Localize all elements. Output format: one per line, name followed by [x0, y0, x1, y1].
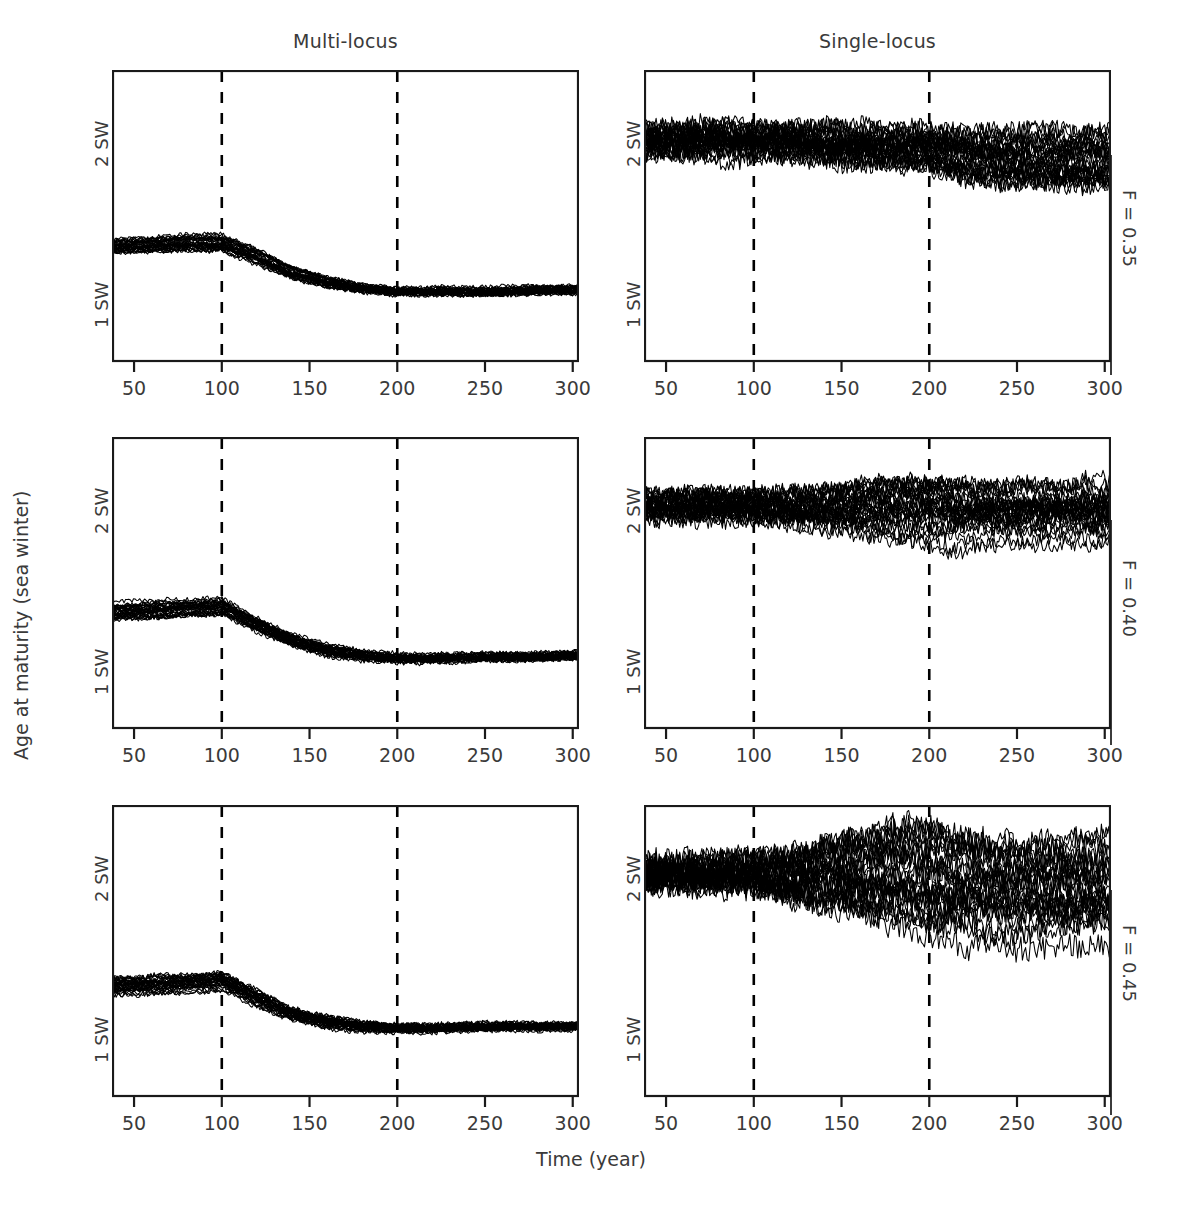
- trace-group: [645, 470, 1109, 559]
- plot-panel-f040-multi-locus: [112, 437, 579, 749]
- x-tick-label-200: 200: [367, 744, 427, 766]
- x-tick-label-50: 50: [104, 377, 164, 399]
- y-tick-label-2-sw: 2 SW: [623, 855, 644, 901]
- x-tick-label-100: 100: [724, 744, 784, 766]
- panel-frame: [113, 806, 578, 1096]
- trace-group: [113, 596, 577, 666]
- replicate-trace: [113, 971, 577, 1029]
- x-tick-label-300: 300: [543, 377, 603, 399]
- x-tick-label-50: 50: [636, 1112, 696, 1134]
- y-axis-title: Age at maturity (sea winter): [10, 491, 32, 760]
- x-tick-label-200: 200: [899, 377, 959, 399]
- x-tick-label-150: 150: [280, 744, 340, 766]
- x-tick-label-250: 250: [987, 744, 1047, 766]
- x-tick-label-150: 150: [812, 377, 872, 399]
- x-tick-label-200: 200: [899, 1112, 959, 1134]
- row-label-f035: F = 0.35: [1119, 190, 1140, 267]
- y-tick-label-1-sw: 1 SW: [623, 648, 644, 694]
- x-tick-label-50: 50: [104, 1112, 164, 1134]
- x-tick-label-200: 200: [899, 744, 959, 766]
- x-tick-label-50: 50: [636, 744, 696, 766]
- row-label-f045: F = 0.45: [1119, 925, 1140, 1002]
- y-tick-label-2-sw: 2 SW: [623, 120, 644, 166]
- panel-frame: [645, 71, 1110, 361]
- trace-group: [645, 114, 1109, 196]
- x-tick-label-150: 150: [280, 1112, 340, 1134]
- x-tick-label-250: 250: [455, 377, 515, 399]
- column-title-single-locus: Single-locus: [645, 30, 1110, 52]
- x-tick-label-300: 300: [1075, 377, 1135, 399]
- trace-group: [113, 232, 577, 297]
- x-tick-label-250: 250: [455, 1112, 515, 1134]
- x-tick-label-300: 300: [1075, 1112, 1135, 1134]
- plot-panel-f035-single-locus: [644, 70, 1111, 382]
- x-tick-label-100: 100: [724, 1112, 784, 1134]
- x-tick-label-200: 200: [367, 1112, 427, 1134]
- figure-canvas: Multi-locus Single-locus Age at maturity…: [0, 0, 1182, 1208]
- x-tick-label-300: 300: [543, 744, 603, 766]
- x-axis-title: Time (year): [461, 1148, 721, 1170]
- x-tick-label-300: 300: [543, 1112, 603, 1134]
- y-tick-label-2-sw: 2 SW: [91, 487, 112, 533]
- y-tick-label-1-sw: 1 SW: [91, 648, 112, 694]
- x-tick-label-100: 100: [192, 377, 252, 399]
- y-tick-label-1-sw: 1 SW: [91, 281, 112, 327]
- x-tick-label-100: 100: [724, 377, 784, 399]
- plot-panel-f045-multi-locus: [112, 805, 579, 1117]
- x-tick-label-100: 100: [192, 744, 252, 766]
- column-title-multi-locus: Multi-locus: [113, 30, 578, 52]
- x-tick-label-150: 150: [280, 377, 340, 399]
- panel-frame: [113, 438, 578, 728]
- x-tick-label-50: 50: [104, 744, 164, 766]
- y-tick-label-2-sw: 2 SW: [623, 487, 644, 533]
- plot-panel-f035-multi-locus: [112, 70, 579, 382]
- y-tick-label-2-sw: 2 SW: [91, 855, 112, 901]
- x-tick-label-50: 50: [636, 377, 696, 399]
- x-tick-label-300: 300: [1075, 744, 1135, 766]
- x-tick-label-150: 150: [812, 1112, 872, 1134]
- panel-frame: [113, 71, 578, 361]
- x-tick-label-200: 200: [367, 377, 427, 399]
- x-tick-label-250: 250: [987, 1112, 1047, 1134]
- y-tick-label-1-sw: 1 SW: [91, 1016, 112, 1062]
- y-tick-label-1-sw: 1 SW: [623, 1016, 644, 1062]
- plot-panel-f040-single-locus: [644, 437, 1111, 749]
- x-tick-label-100: 100: [192, 1112, 252, 1134]
- x-tick-label-250: 250: [455, 744, 515, 766]
- trace-group: [645, 811, 1109, 963]
- trace-group: [113, 971, 577, 1036]
- y-tick-label-2-sw: 2 SW: [91, 120, 112, 166]
- x-tick-label-250: 250: [987, 377, 1047, 399]
- x-tick-label-150: 150: [812, 744, 872, 766]
- y-tick-label-1-sw: 1 SW: [623, 281, 644, 327]
- plot-panel-f045-single-locus: [644, 805, 1111, 1117]
- row-label-f040: F = 0.40: [1119, 560, 1140, 637]
